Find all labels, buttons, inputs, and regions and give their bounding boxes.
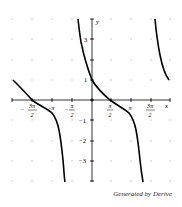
svg-text:2: 2 xyxy=(71,112,74,118)
svg-text:−: − xyxy=(64,106,68,112)
plot: y x 3 1 −1 −2 −3 −3π2 −π −π2 π2 π 3π2 xyxy=(0,0,182,207)
svg-text:−2: −2 xyxy=(79,137,86,144)
svg-text:3: 3 xyxy=(84,36,87,43)
svg-text:2: 2 xyxy=(109,112,112,118)
x-axis-label: x xyxy=(164,102,169,110)
svg-text:3π: 3π xyxy=(146,103,154,109)
svg-text:3π: 3π xyxy=(28,103,36,109)
curve-branch-left xyxy=(13,80,65,182)
svg-text:−: − xyxy=(20,106,24,112)
credit-text: Generated by Derive xyxy=(113,190,172,198)
curve-branch-right xyxy=(155,19,169,80)
svg-text:π: π xyxy=(108,103,112,109)
svg-text:2: 2 xyxy=(31,112,34,118)
svg-text:−3: −3 xyxy=(79,157,86,164)
svg-text:2: 2 xyxy=(149,112,152,118)
y-axis-label: y xyxy=(95,18,100,26)
curves xyxy=(13,19,169,182)
curve-branch-middle xyxy=(78,19,143,182)
svg-text:1: 1 xyxy=(84,76,87,83)
svg-text:π: π xyxy=(128,105,132,111)
svg-text:−1: −1 xyxy=(79,117,86,124)
svg-text:π: π xyxy=(70,103,74,109)
